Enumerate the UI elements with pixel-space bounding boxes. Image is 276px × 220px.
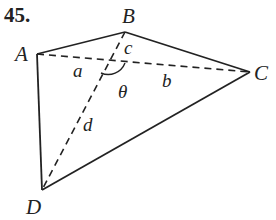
segment-label-a: a [73, 60, 83, 81]
segment-label-d: d [83, 114, 93, 135]
segment-label-b: b [162, 70, 172, 91]
angle-theta-arc [101, 63, 125, 75]
vertex-label-a: A [13, 42, 28, 66]
vertex-label-d: D [25, 195, 41, 219]
diagonal-ac [37, 54, 250, 72]
quadrilateral-diagram: 45. A B C D a b c d θ [0, 0, 276, 220]
side-da [37, 54, 42, 190]
problem-number: 45. [4, 3, 30, 27]
angle-label-theta: θ [118, 81, 127, 102]
segment-label-c: c [124, 37, 133, 58]
vertex-label-c: C [254, 61, 269, 85]
side-ab [37, 32, 125, 54]
vertex-label-b: B [122, 4, 135, 28]
